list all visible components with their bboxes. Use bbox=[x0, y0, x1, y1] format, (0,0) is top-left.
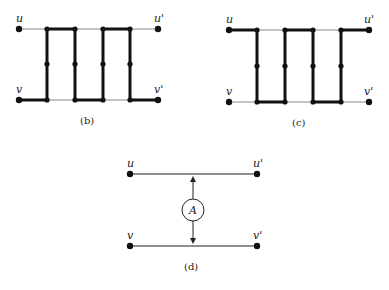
arrow-down-head-icon bbox=[190, 238, 196, 244]
thick-path bbox=[229, 30, 369, 102]
label-v-prime: v' bbox=[364, 85, 373, 98]
caption-d: (d) bbox=[184, 261, 198, 272]
caption-c: (c) bbox=[292, 117, 306, 128]
label-v: v bbox=[16, 83, 23, 96]
label-u: u bbox=[127, 157, 134, 170]
panel-c: u u' v v' (c) bbox=[226, 13, 374, 128]
circle-label-a: A bbox=[188, 204, 197, 217]
label-u-prime: u' bbox=[154, 12, 164, 25]
nodes bbox=[226, 27, 372, 105]
thick-path bbox=[19, 29, 158, 100]
label-v-prime: v' bbox=[154, 83, 163, 96]
panel-d: A u u' v v' (d) bbox=[127, 157, 263, 272]
label-u-prime: u' bbox=[364, 13, 374, 26]
label-u: u bbox=[226, 13, 233, 26]
label-v: v bbox=[127, 229, 134, 242]
panel-b: u u' v v' (b) bbox=[16, 12, 164, 126]
label-u: u bbox=[16, 12, 23, 25]
label-u-prime: u' bbox=[253, 157, 263, 170]
arrow-up-head-icon bbox=[190, 176, 196, 182]
nodes bbox=[16, 26, 161, 103]
caption-b: (b) bbox=[80, 115, 94, 126]
label-v-prime: v' bbox=[253, 229, 262, 242]
figure: u u' v v' (b) u u' v v' (c bbox=[0, 0, 389, 290]
label-v: v bbox=[226, 85, 233, 98]
